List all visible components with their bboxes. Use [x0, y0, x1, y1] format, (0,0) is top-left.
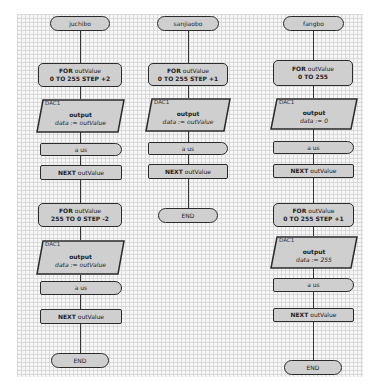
for-range: 0 TO 255 — [298, 73, 328, 81]
next-variable: outValue — [78, 313, 104, 320]
next-keyword: NEXT — [58, 169, 76, 176]
next-keyword: NEXT — [290, 167, 308, 174]
wait-block[interactable]: a us — [40, 143, 122, 156]
wait-label: a us — [307, 281, 320, 289]
connector — [188, 31, 189, 63]
start-label: juchibo — [69, 20, 91, 28]
connector — [313, 129, 314, 141]
connector — [313, 321, 314, 360]
connector — [80, 227, 81, 240]
connector — [80, 132, 81, 143]
for-variable: outValue — [183, 67, 209, 74]
for-loop-block[interactable]: FOR outValue 255 TO 0 STEP -2 — [38, 203, 122, 227]
for-loop-block[interactable]: FOR outValue 0 TO 255 — [273, 60, 353, 86]
next-block[interactable]: NEXT outValue — [273, 164, 354, 178]
for-range: 255 TO 0 STEP -2 — [51, 215, 109, 223]
connector — [313, 292, 314, 308]
for-variable: outValue — [308, 207, 334, 214]
for-variable: outValue — [75, 67, 101, 74]
for-loop-block[interactable]: FOR outValue 0 TO 255 STEP +2 — [38, 63, 122, 87]
start-label: sanjiaobo — [174, 20, 203, 28]
wait-label: a us — [307, 144, 320, 152]
output-title: output — [303, 109, 326, 117]
wait-label: a us — [75, 284, 88, 292]
for-variable: outValue — [75, 207, 101, 214]
end-terminal[interactable]: END — [284, 360, 342, 375]
for-keyword: FOR — [167, 67, 181, 74]
next-keyword: NEXT — [290, 311, 308, 318]
output-expression: data := outValue — [55, 261, 106, 269]
for-loop-block[interactable]: FOR outValue 0 TO 255 STEP +1 — [273, 203, 354, 227]
connector — [313, 227, 314, 236]
for-range: 0 TO 255 STEP +2 — [50, 75, 110, 83]
end-terminal[interactable]: END — [158, 208, 218, 223]
start-terminal[interactable]: sanjiaobo — [157, 16, 219, 31]
wait-block[interactable]: a us — [273, 141, 354, 154]
for-keyword: FOR — [292, 207, 306, 214]
next-variable: outValue — [185, 168, 211, 175]
next-block[interactable]: NEXT outValue — [148, 164, 228, 179]
output-block[interactable]: DAC1 output data := outValue — [36, 99, 125, 133]
output-block[interactable]: DAC1 output data := outValue — [145, 98, 231, 132]
connector — [313, 177, 314, 203]
connector — [80, 87, 81, 99]
output-expression: data := outValue — [163, 118, 214, 126]
wait-label: a us — [182, 145, 195, 153]
next-variable: outValue — [310, 167, 336, 174]
next-block[interactable]: NEXT outValue — [40, 165, 122, 180]
output-expression: data := 255 — [296, 256, 332, 264]
wait-block[interactable]: a us — [273, 278, 354, 292]
output-expression: data := outValue — [55, 119, 106, 127]
connector — [313, 268, 314, 278]
connector — [313, 86, 314, 98]
for-variable: outValue — [308, 65, 334, 72]
wait-label: a us — [75, 146, 88, 154]
output-block[interactable]: DAC1 output data := 255 — [270, 236, 358, 269]
output-block[interactable]: DAC1 output data := 0 — [270, 98, 358, 130]
connector — [188, 155, 189, 164]
connector — [80, 324, 81, 353]
start-terminal[interactable]: fangbo — [283, 16, 344, 31]
for-keyword: FOR — [292, 65, 306, 72]
end-label: END — [182, 212, 195, 220]
output-title: output — [177, 110, 200, 118]
connector — [188, 179, 189, 208]
for-keyword: FOR — [59, 207, 73, 214]
next-keyword: NEXT — [58, 313, 76, 320]
connector — [80, 295, 81, 309]
output-title: output — [69, 253, 92, 261]
output-title: output — [303, 248, 326, 256]
end-label: END — [74, 357, 87, 365]
end-terminal[interactable]: END — [51, 353, 109, 368]
start-label: fangbo — [303, 20, 324, 28]
connector — [80, 180, 81, 203]
output-title: output — [69, 111, 92, 119]
connector — [80, 31, 81, 63]
next-block[interactable]: NEXT outValue — [273, 308, 354, 322]
wait-block[interactable]: a us — [148, 142, 228, 155]
for-range: 0 TO 255 STEP +1 — [158, 75, 218, 83]
connector — [80, 155, 81, 165]
wait-block[interactable]: a us — [40, 281, 122, 295]
for-keyword: FOR — [59, 67, 73, 74]
for-loop-block[interactable]: FOR outValue 0 TO 255 STEP +1 — [148, 63, 228, 86]
output-block[interactable]: DAC1 output data := outValue — [36, 240, 125, 275]
end-label: END — [307, 364, 320, 372]
next-keyword: NEXT — [165, 168, 183, 175]
for-range: 0 TO 255 STEP +1 — [283, 215, 343, 223]
start-terminal[interactable]: juchibo — [50, 16, 110, 31]
next-block[interactable]: NEXT outValue — [40, 309, 122, 324]
connector — [188, 131, 189, 142]
connector — [313, 154, 314, 164]
next-variable: outValue — [78, 169, 104, 176]
connector — [313, 31, 314, 60]
connector — [188, 86, 189, 98]
output-expression: data := 0 — [300, 117, 328, 125]
next-variable: outValue — [310, 311, 336, 318]
